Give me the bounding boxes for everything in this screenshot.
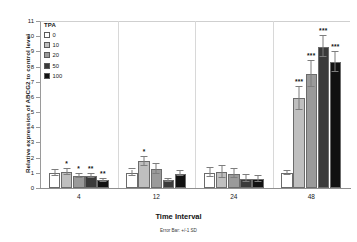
bar: *** <box>318 47 330 188</box>
error-bar-cap-top <box>296 86 303 87</box>
legend-label: 50 <box>53 63 59 69</box>
error-bar <box>323 36 324 57</box>
legend-swatch <box>44 52 50 58</box>
error-bar-cap-top <box>332 51 339 52</box>
bar: *** <box>330 62 342 188</box>
bar-fill <box>330 62 342 188</box>
error-bar-cap-top <box>320 35 327 36</box>
x-tick-label: 48 <box>308 193 315 200</box>
error-bar <box>335 52 336 72</box>
error-bar-cap-bottom <box>320 56 327 57</box>
error-bar <box>299 87 300 110</box>
legend-item: 50 <box>44 62 62 69</box>
error-bar-cap-bottom <box>308 86 315 87</box>
x-tick-label: 24 <box>230 193 237 200</box>
error-bar-cap-bottom <box>332 71 339 72</box>
legend-item: 20 <box>44 52 62 59</box>
legend-swatch <box>44 63 50 69</box>
legend-item: 0 <box>44 32 62 39</box>
bar: *** <box>306 74 318 188</box>
legend-label: 20 <box>53 52 59 58</box>
legend: TPA 0102050100 <box>44 22 62 82</box>
legend-swatch <box>44 73 50 79</box>
bar-fill <box>318 47 330 188</box>
x-axis-title: Time Interval <box>0 212 357 221</box>
legend-item: 100 <box>44 72 62 79</box>
x-axis-note: Error Bar: +/-1 SD <box>0 228 357 233</box>
significance-marker: *** <box>319 27 328 34</box>
x-axis-line <box>40 188 351 189</box>
x-tick-label: 4 <box>77 193 81 200</box>
bar-fill <box>293 98 305 188</box>
error-bar-cap-bottom <box>284 174 291 175</box>
legend-items: 0102050100 <box>44 32 62 80</box>
bar-chart: Relative expression of ABCG2 to control … <box>0 0 357 242</box>
legend-label: 10 <box>53 42 59 48</box>
legend-swatch <box>44 32 50 38</box>
error-bar-cap-bottom <box>296 109 303 110</box>
significance-marker: *** <box>295 78 304 85</box>
bar: *** <box>293 98 305 188</box>
bar <box>281 173 293 188</box>
legend-label: 0 <box>53 32 56 38</box>
significance-marker: *** <box>331 43 340 50</box>
legend-swatch <box>44 42 50 48</box>
legend-label: 100 <box>53 73 63 79</box>
bar-fill <box>306 74 318 188</box>
y-tick-mark <box>36 188 40 189</box>
legend-item: 10 <box>44 42 62 49</box>
error-bar-cap-top <box>284 170 291 171</box>
error-bar <box>311 61 312 87</box>
legend-title: TPA <box>44 22 62 28</box>
bar-fill <box>281 173 293 188</box>
x-tick-label: 12 <box>153 193 160 200</box>
significance-marker: *** <box>307 52 316 59</box>
error-bar-cap-top <box>308 60 315 61</box>
